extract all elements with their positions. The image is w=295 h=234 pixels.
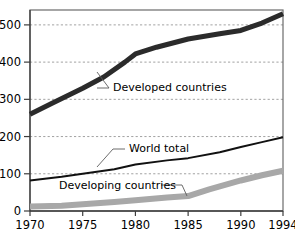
annotation-label-0: Developed countries [113,81,227,94]
y-tick-label-200: 200 [0,130,21,144]
x-tick-label-1970: 1970 [15,218,44,232]
x-tick-label-1994: 1994 [268,218,295,232]
x-axis-group: 197019751980198519901994 [15,211,295,232]
x-tick-label-1985: 1985 [173,218,202,232]
y-tick-label-100: 100 [0,167,21,181]
x-tick-label-1990: 1990 [226,218,255,232]
annotation-label-1: World total [129,142,189,155]
y-tick-label-500: 500 [0,18,21,32]
series-group [30,14,283,207]
y-tick-label-400: 400 [0,55,21,69]
annotation-label-2: Developing countries [59,179,176,192]
annotations-group: Developed countriesWorld totalDeveloping… [59,72,227,196]
series-line-developed-countries [30,14,283,115]
y-tick-label-0: 0 [14,204,21,218]
y-axis-group: 0100200300400500 [0,10,30,218]
x-tick-label-1980: 1980 [121,218,150,232]
chart-container: 0100200300400500 19701975198019851990199… [0,0,295,234]
x-tick-label-1975: 1975 [68,218,97,232]
line-chart: 0100200300400500 19701975198019851990199… [0,0,295,234]
y-tick-label-300: 300 [0,92,21,106]
annotation-leader-1 [97,149,125,167]
